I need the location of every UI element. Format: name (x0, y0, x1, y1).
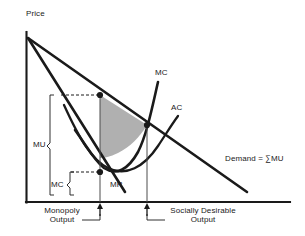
social-output-label-line1: Socially Desirable (162, 206, 244, 215)
social-output-label: Socially Desirable Output (162, 206, 244, 225)
mc-curve-label: MC (155, 68, 168, 77)
y-axis-label: Price (26, 9, 45, 18)
mr-equals-mc-point (97, 169, 103, 175)
economics-diagram: Price MC AC MR Demand = ∑MU MU MC Monopo… (0, 0, 305, 236)
mr-curve-label: MR (110, 180, 123, 189)
monopoly-output-label-line1: Monopoly (34, 206, 90, 215)
ac-curve-label: AC (171, 103, 182, 112)
mc-bracket-label: MC (51, 180, 64, 189)
monopoly-price-point (97, 92, 103, 98)
mc-brace (67, 172, 74, 195)
socially-desirable-point (144, 122, 150, 128)
mu-bracket-label: MU (33, 140, 46, 149)
demand-curve-label: Demand = ∑MU (225, 154, 284, 163)
monopoly-output-label-line2: Output (34, 215, 90, 224)
social-output-label-line2: Output (162, 215, 244, 224)
demand-curve (28, 38, 247, 192)
monopoly-output-label: Monopoly Output (34, 206, 90, 225)
diagram-canvas (0, 0, 305, 236)
